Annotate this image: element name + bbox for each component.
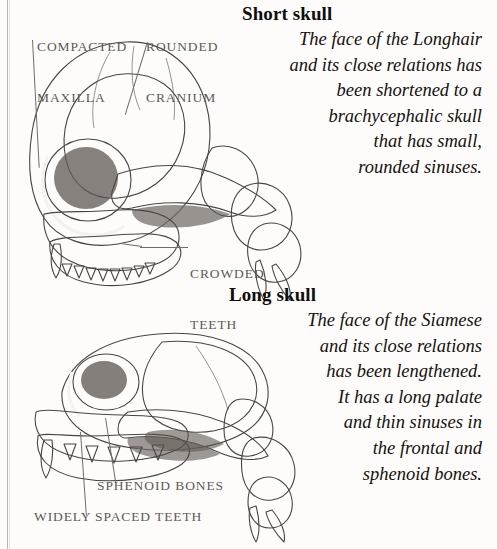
frontal-highlight — [69, 372, 80, 416]
label-crowded-teeth-line1: CROWDED — [190, 265, 265, 282]
body-long-skull-line-7: sphenoid bones. — [228, 462, 482, 488]
crowded-tooth-row — [62, 263, 155, 281]
body-long-skull-line-5: and thin sinuses in — [228, 410, 482, 436]
label-rounded-cranium-line1: ROUNDED — [146, 38, 218, 55]
orbit-inner-shadow — [54, 147, 118, 209]
label-widely-spaced-teeth: WIDELY SPACED TEETH — [34, 508, 202, 525]
leader-line-crowded-teeth — [140, 247, 188, 248]
label-rounded-cranium-line2: CRANIUM — [146, 89, 218, 106]
body-short-skull-line-4: brachycephalic skull — [230, 104, 482, 130]
label-compacted-maxilla-line1: COMPACTED — [37, 38, 127, 55]
mandible — [50, 234, 181, 286]
label-compacted-maxilla: COMPACTED MAXILLA — [37, 4, 127, 140]
temporal-fossa-shadow — [132, 205, 230, 227]
body-short-skull-line-3: been shortened to a — [230, 78, 482, 104]
heading-short-skull: Short skull — [242, 3, 332, 25]
body-short-skull-line-5: that has small, — [230, 129, 482, 155]
upper-canine-tooth — [51, 244, 61, 278]
heading-long-skull: Long skull — [229, 284, 316, 306]
page-border-rule — [7, 0, 8, 549]
body-long-skull-line-3: has been lengthened. — [228, 359, 482, 385]
label-rounded-cranium: ROUNDED CRANIUM — [146, 4, 218, 140]
long-mastoid-process — [266, 510, 285, 542]
figure-page: COMPACTED MAXILLA ROUNDED CRANIUM CROWDE… — [0, 0, 497, 549]
body-long-skull-line-1: The face of the Siamese — [228, 308, 482, 334]
body-long-skull-line-4: It has a long palate — [228, 385, 482, 411]
body-short-skull-line-1: The face of the Longhair — [230, 27, 482, 53]
long-orbit-inner-shadow — [81, 361, 127, 399]
label-sphenoid-bones: SPHENOID BONES — [97, 477, 224, 494]
body-short-skull-line-6: rounded sinuses. — [230, 155, 482, 181]
body-long-skull-line-2: and its close relations — [228, 334, 482, 360]
body-long-skull: The face of the Siamese and its close re… — [228, 308, 482, 487]
body-short-skull-line-2: and its close relations has — [230, 53, 482, 79]
body-short-skull: The face of the Longhair and its close r… — [230, 27, 482, 181]
label-compacted-maxilla-line2: MAXILLA — [37, 89, 127, 106]
body-long-skull-line-6: the frontal and — [228, 436, 482, 462]
